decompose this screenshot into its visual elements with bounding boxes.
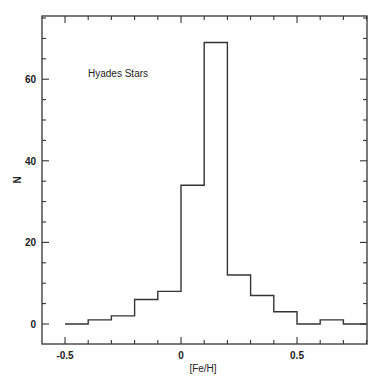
y-axis-label: N — [12, 176, 23, 183]
annotation-hyades-stars: Hyades Stars — [88, 68, 148, 79]
histogram-step-line — [65, 42, 367, 324]
histogram-chart: -0.500.5 0204060 Hyades Stars [Fe/H] N — [0, 0, 383, 388]
y-tick-label: 0 — [30, 319, 36, 330]
x-tick-label: 0.5 — [290, 350, 304, 361]
y-tick-labels: 0204060 — [25, 74, 37, 330]
y-tick-label: 40 — [25, 156, 37, 167]
y-tick-label: 20 — [25, 237, 37, 248]
x-axis-label: [Fe/H] — [189, 363, 216, 374]
x-tick-labels: -0.500.5 — [56, 350, 304, 361]
y-tick-label: 60 — [25, 74, 37, 85]
x-tick-label: -0.5 — [56, 350, 74, 361]
x-axis-ticks — [65, 16, 367, 344]
x-tick-label: 0 — [178, 350, 184, 361]
